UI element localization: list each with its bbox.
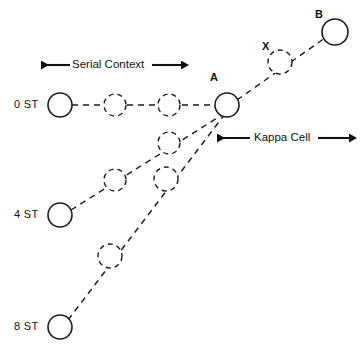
node-4st-1[interactable]: [48, 203, 72, 227]
node-0st-2[interactable]: [104, 94, 126, 116]
node-4st-3[interactable]: [158, 132, 180, 154]
edge-4st-diagonal: [71, 113, 225, 210]
node-8st-3[interactable]: [154, 167, 178, 191]
node-label-b: B: [315, 8, 323, 20]
row-label-0st: 0 ST: [14, 98, 38, 110]
node-0st-3[interactable]: [158, 94, 180, 116]
node-0st-1[interactable]: [48, 93, 72, 117]
node-a[interactable]: [215, 93, 239, 117]
edge-8st-diagonal: [68, 114, 225, 320]
diagram-svg: [0, 0, 362, 352]
node-label-a: A: [210, 71, 218, 83]
node-8st-1[interactable]: [48, 315, 72, 339]
annotation-arrow-group: [41, 65, 349, 138]
node-8st-2[interactable]: [98, 244, 122, 268]
node-4st-2[interactable]: [104, 169, 126, 191]
kappa-cell-label: Kappa Cell: [252, 131, 312, 143]
node-x[interactable]: [268, 50, 292, 74]
node-label-x: X: [262, 40, 269, 52]
serial-context-label: Serial Context: [70, 58, 146, 70]
row-label-8st: 8 ST: [14, 320, 38, 332]
node-b[interactable]: [322, 19, 348, 45]
diagram-canvas: 0 ST 4 ST 8 ST A X B Serial Context Kapp…: [0, 0, 362, 352]
row-label-4st: 4 ST: [14, 208, 38, 220]
